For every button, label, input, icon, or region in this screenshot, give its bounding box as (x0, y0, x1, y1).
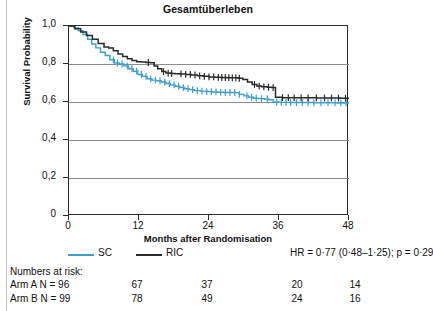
y-tick-label: 0 (26, 208, 56, 219)
risk-row-label: Arm A N = 96 (10, 279, 69, 290)
risk-row-value: 78 (122, 293, 152, 304)
risk-row-value: 16 (340, 293, 370, 304)
risk-row-label: Arm B N = 99 (10, 293, 70, 304)
risk-table-row: Arm B N = 9978492416 (10, 293, 362, 306)
legend-label-sc: SC (98, 247, 112, 258)
hazard-ratio-annotation: HR = 0·77 (0·48–1·25); p = 0·29 (290, 247, 433, 258)
risk-row-value: 20 (282, 279, 312, 290)
risk-table-row: Arm A N = 9667372014 (10, 279, 362, 292)
x-tick-label: 0 (51, 220, 85, 231)
x-tick-label: 24 (191, 220, 225, 231)
x-tick-label: 12 (121, 220, 155, 231)
curve-ric (69, 26, 349, 98)
curve-sc (69, 26, 349, 103)
page-margin-rule (6, 0, 7, 311)
x-tick-label: 48 (331, 220, 365, 231)
legend-swatch-ric (136, 254, 162, 256)
y-tick-label: 0,8 (26, 56, 56, 67)
risk-row-value: 24 (282, 293, 312, 304)
chart-legend: SC RIC HR = 0·77 (0·48–1·25); p = 0·29 (68, 246, 362, 262)
y-tick-label: 0,4 (26, 132, 56, 143)
y-tick-label: 1,0 (26, 18, 56, 29)
plot-area (68, 25, 348, 215)
legend-swatch-sc (68, 254, 94, 256)
x-tick-label: 36 (261, 220, 295, 231)
risk-row-value: 67 (122, 279, 152, 290)
x-axis-label: Months after Randomisation (68, 233, 348, 244)
risk-row-value: 14 (340, 279, 370, 290)
chart-title: Gesamtüberleben (68, 3, 348, 15)
y-tick-label: 0,2 (26, 170, 56, 181)
risk-table-title: Numbers at risk: (10, 266, 83, 277)
risk-row-value: 49 (192, 293, 222, 304)
survival-curves (69, 26, 349, 216)
risk-row-value: 37 (192, 279, 222, 290)
y-tick-label: 0,6 (26, 94, 56, 105)
legend-label-ric: RIC (166, 247, 183, 258)
